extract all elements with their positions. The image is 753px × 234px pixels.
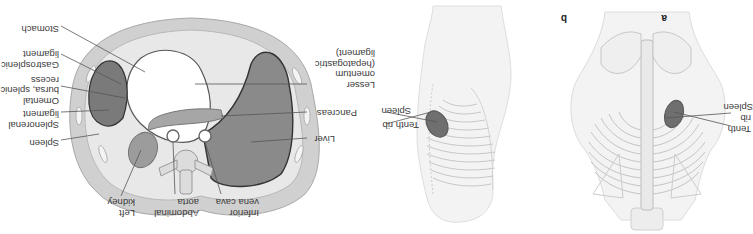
label-inferior-vena-cava: Inferior vena cava bbox=[216, 197, 259, 218]
label-splenorenal-ligament: Splenorenal ligament bbox=[8, 109, 59, 130]
label-spleen-b: Spleen bbox=[381, 106, 411, 117]
label-lesser-omentum: Lesser omentum (hepatogastric ligament) bbox=[315, 48, 375, 90]
label-spleen-c: Spleen bbox=[29, 138, 59, 149]
lateral-trunk-illustration bbox=[366, 0, 551, 234]
label-pancreas: Pancreas bbox=[317, 108, 357, 119]
panel-letter-a: a bbox=[661, 13, 667, 24]
aorta-shape bbox=[167, 130, 179, 142]
label-spleen-a: Spleen bbox=[723, 102, 753, 113]
panel-c-cross-section: Stomach Gastrosplenic ligament Omental b… bbox=[0, 0, 371, 234]
label-stomach: Stomach bbox=[22, 24, 60, 35]
label-liver: Liver bbox=[314, 134, 335, 145]
label-left-kidney: Left kidney bbox=[108, 197, 135, 218]
panel-a-posterior-view: a Tenth rib Spleen bbox=[536, 0, 751, 234]
label-omental-bursa: Omental bursa, splenic recess bbox=[0, 75, 59, 107]
ivc-shape bbox=[199, 130, 211, 142]
label-tenth-rib-a: Tenth rib bbox=[728, 113, 751, 134]
panel-letter-b: b bbox=[561, 13, 567, 24]
label-abdominal-aorta: Abdominal aorta bbox=[154, 197, 199, 218]
label-tenth-rib-b: Tenth rib bbox=[383, 120, 419, 131]
label-gastrosplenic-ligament: Gastrosplenic ligament bbox=[1, 49, 59, 70]
posterior-trunk-illustration bbox=[536, 0, 751, 234]
panel-b-lateral-view: b Tenth rib Spleen bbox=[366, 0, 551, 234]
